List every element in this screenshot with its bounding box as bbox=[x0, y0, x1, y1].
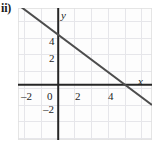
y-tick-label-2: 2 bbox=[49, 53, 55, 64]
y-tick-label-neg2: –2 bbox=[43, 104, 54, 115]
x-tick-label-neg2: –2 bbox=[21, 91, 32, 102]
x-tick-label-4: 4 bbox=[108, 91, 114, 102]
plotted-line bbox=[18, 8, 152, 140]
origin-label: 0 bbox=[47, 91, 53, 102]
y-tick-label-4: 4 bbox=[49, 36, 55, 47]
y-axis-label: y bbox=[61, 10, 66, 21]
plot-area bbox=[18, 8, 152, 140]
x-axis-label: x bbox=[138, 76, 143, 87]
x-tick-label-2: 2 bbox=[75, 91, 81, 102]
graph-figure: ii) bbox=[0, 0, 158, 148]
part-label: ii) bbox=[1, 2, 11, 14]
